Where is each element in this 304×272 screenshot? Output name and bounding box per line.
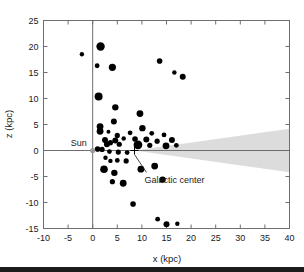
x-tick-label: 20 [186, 233, 196, 243]
data-point [164, 221, 170, 227]
data-point [180, 74, 186, 80]
data-point [120, 180, 127, 187]
data-point [99, 147, 104, 152]
y-tick-label: 10 [28, 94, 38, 104]
data-point [139, 125, 145, 131]
sun-label: Sun [71, 138, 87, 148]
data-point [97, 128, 104, 135]
y-tick-label: -15 [25, 224, 38, 234]
data-point [169, 137, 175, 143]
data-point [121, 136, 125, 140]
x-tick-label: -10 [37, 233, 50, 243]
data-point [111, 118, 117, 124]
data-point [130, 201, 136, 207]
data-point [155, 217, 160, 222]
data-point [80, 52, 84, 56]
data-point [112, 104, 118, 110]
x-axis-title: x (kpc) [153, 253, 182, 264]
data-point [95, 92, 103, 100]
plot-canvas: -10-50510152025303540 -15-10-50510152025… [0, 0, 304, 272]
x-tick-label: 0 [90, 233, 95, 243]
x-tick-label: 15 [161, 233, 171, 243]
data-point [110, 179, 115, 184]
y-tick-label: -10 [25, 198, 38, 208]
data-point [115, 158, 120, 163]
data-point [107, 149, 112, 154]
y-tick-label: 0 [33, 146, 38, 156]
x-tick-label: 40 [284, 233, 294, 243]
data-point [108, 159, 112, 163]
data-point [124, 158, 129, 163]
data-point [163, 142, 170, 149]
data-point [175, 222, 179, 226]
data-point [151, 163, 158, 170]
sun-marker-dot [90, 148, 95, 153]
y-tick-label: 15 [28, 68, 38, 78]
data-point [147, 143, 152, 148]
data-point [172, 70, 176, 74]
x-tick-label: -5 [64, 233, 72, 243]
data-point [111, 170, 117, 176]
y-axis-title: z (kpc) [3, 110, 14, 139]
data-point [162, 133, 167, 138]
y-tick-label: -5 [30, 172, 38, 182]
x-tick-label: 10 [137, 233, 147, 243]
scatter-plot-figure: -10-50510152025303540 -15-10-50510152025… [0, 0, 304, 272]
data-point [174, 143, 179, 148]
data-point [109, 64, 116, 71]
x-tick-label: 5 [115, 233, 120, 243]
x-tick-label: 25 [211, 233, 221, 243]
data-point [106, 130, 110, 134]
data-point [96, 42, 104, 50]
data-point [155, 139, 160, 144]
galactic-center-label: Galactic center [145, 175, 205, 185]
data-point [143, 137, 149, 143]
data-point [138, 166, 145, 173]
data-point [157, 58, 163, 64]
y-tick-label: 5 [33, 120, 38, 130]
y-tick-label: 20 [28, 42, 38, 52]
data-point [103, 156, 107, 160]
x-tick-label: 30 [235, 233, 245, 243]
data-point [100, 165, 108, 173]
x-tick-label: 35 [260, 233, 270, 243]
data-point [117, 142, 122, 147]
data-point [149, 131, 154, 136]
data-point [116, 149, 121, 154]
data-point [125, 150, 130, 155]
bottom-edge-bar [0, 267, 304, 272]
data-point [108, 140, 113, 145]
data-point [115, 133, 120, 138]
y-tick-label: 25 [28, 16, 38, 26]
data-point [95, 63, 100, 68]
data-point [137, 110, 144, 117]
data-point [128, 130, 133, 135]
